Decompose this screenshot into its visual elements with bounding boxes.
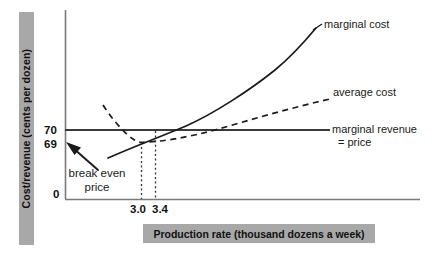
marginal-cost-label: marginal cost [324, 18, 389, 30]
x-axis-label: Production rate (thousand dozens a week) [153, 228, 364, 240]
x-axis-label-box: Production rate (thousand dozens a week) [143, 224, 375, 243]
x-tick-label-3-0: 3.0 [130, 203, 146, 215]
average-cost-curve [103, 99, 330, 142]
x-tick-label-3-4: 3.4 [152, 203, 168, 215]
marginal-revenue-label-line2: = price [338, 136, 371, 148]
y-tick-label-69: 69 [44, 138, 57, 150]
average-cost-label: average cost [333, 86, 396, 98]
marginal-revenue-label-line1: marginal revenue [332, 123, 417, 135]
marginal-cost-leader [313, 24, 322, 30]
economics-cost-revenue-chart: Cost/revenue (cents per dozen) Productio… [0, 0, 440, 257]
y-axis-label-box: Cost/revenue (cents per dozen) [19, 12, 34, 245]
marginal-cost-curve [108, 28, 316, 158]
y-origin-label: 0 [53, 188, 59, 200]
break-even-label-line1: break even [63, 166, 131, 180]
y-tick-label-70: 70 [44, 124, 57, 136]
break-even-label-line2: price [63, 180, 131, 194]
y-axis-label: Cost/revenue (cents per dozen) [19, 49, 34, 208]
